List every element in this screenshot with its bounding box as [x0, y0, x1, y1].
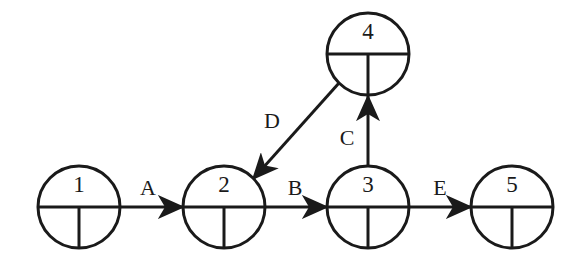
node-1[interactable]: 1 [38, 166, 120, 248]
node-label-1: 1 [73, 172, 85, 197]
node-3[interactable]: 3 [327, 166, 409, 248]
node-graph-diagram: 12354 ABECD [0, 0, 580, 269]
node-4[interactable]: 4 [327, 13, 409, 95]
node-2[interactable]: 2 [183, 166, 265, 248]
node-5[interactable]: 5 [471, 166, 553, 248]
edge-label-c: C [340, 125, 355, 150]
node-label-4: 4 [362, 19, 374, 44]
diagram-canvas: 12354 ABECD [0, 0, 580, 269]
edge-label-e: E [433, 175, 446, 200]
node-label-2: 2 [218, 172, 230, 197]
edge-label-b: B [288, 175, 303, 200]
edge-label-a: A [140, 175, 156, 200]
edge-label-d: D [264, 108, 280, 133]
node-label-3: 3 [362, 172, 374, 197]
node-label-5: 5 [506, 172, 518, 197]
